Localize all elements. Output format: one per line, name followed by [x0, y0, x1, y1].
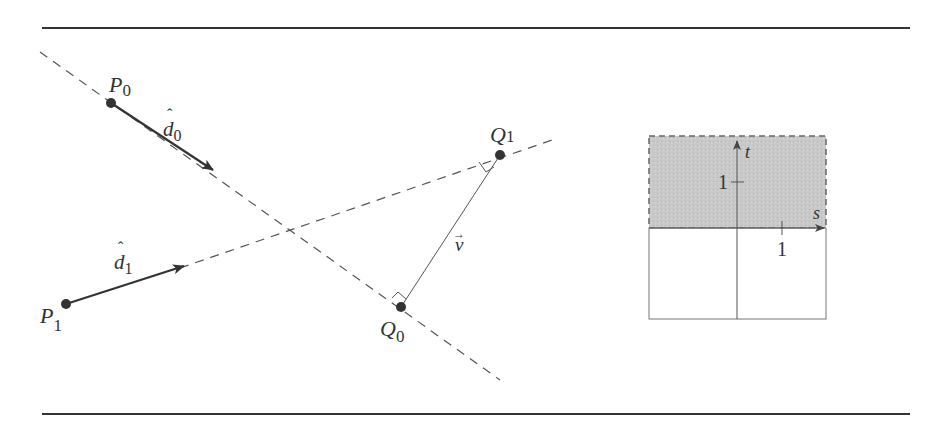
label-p1: P1	[39, 303, 62, 335]
hat-d0: ˆ	[167, 106, 173, 123]
point-p1	[61, 299, 71, 309]
axis-label-s: s	[813, 203, 820, 223]
vector-d0-arrow	[111, 103, 213, 170]
label-p0: P0	[108, 72, 131, 100]
point-q1	[495, 150, 505, 160]
tick-label-t-1: 1	[718, 171, 728, 193]
label-q1: Q1	[490, 122, 514, 147]
hat-d1: ˆ	[118, 239, 124, 256]
tick-label-s-1: 1	[777, 238, 787, 260]
label-q0: Q0	[380, 316, 404, 346]
right-angle-mark-q0	[392, 292, 406, 299]
point-p0	[106, 98, 116, 108]
arrow-v: →	[453, 227, 465, 241]
domain-plot: t s 1 1	[649, 136, 826, 319]
vector-v-segment	[401, 155, 500, 307]
point-q0	[396, 302, 406, 312]
figure-canvas: P0 P1 Q0 Q1 d0 ˆ d1 ˆ v → t s 1 1	[0, 0, 941, 423]
